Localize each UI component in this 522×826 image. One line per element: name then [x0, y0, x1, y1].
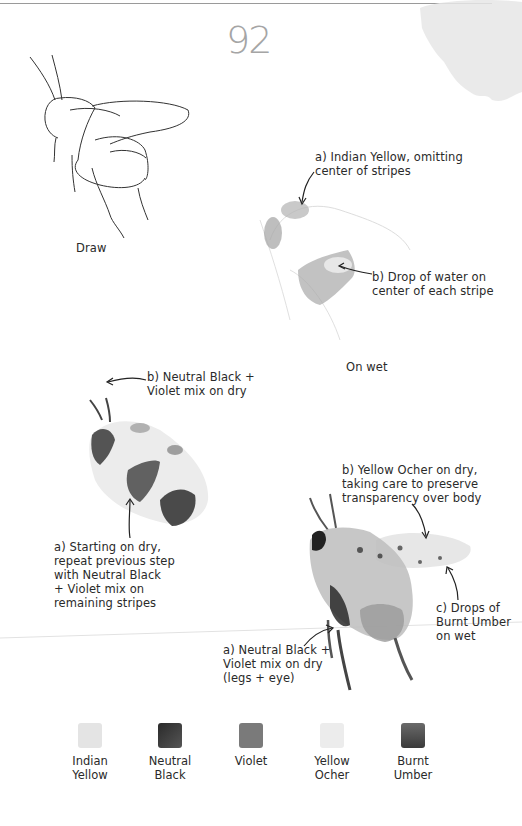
- arrow-icon: [410, 502, 432, 540]
- page-number: 92: [226, 18, 270, 62]
- final-note-a: a) Neutral Black + Violet mix on dry (le…: [223, 643, 331, 685]
- swatch-violet: [239, 723, 263, 748]
- step-draw-label: Draw: [76, 241, 106, 255]
- on-wet-label: On wet: [346, 360, 388, 374]
- arrow-icon: [104, 374, 148, 388]
- swatch-label-neutral-black: Neutral Black: [135, 754, 205, 782]
- bee-stripes-painting: [60, 400, 220, 540]
- arrow-icon: [338, 262, 374, 278]
- arrow-icon: [300, 170, 320, 210]
- swatch-indian-yellow: [78, 723, 102, 748]
- swatch-yellow-ocher: [320, 723, 344, 748]
- watercolor-splash-decoration: [400, 0, 522, 110]
- swatch-label-indian-yellow: Indian Yellow: [55, 754, 125, 782]
- swatch-label-burnt-umber: Burnt Umber: [378, 754, 448, 782]
- stripes-note-b: b) Neutral Black + Violet mix on dry: [147, 370, 255, 398]
- stripes-note-a: a) Starting on dry, repeat previous step…: [54, 540, 175, 610]
- arrow-icon: [302, 624, 336, 648]
- on-wet-note-b: b) Drop of water on center of each strip…: [372, 270, 494, 298]
- arrow-icon: [124, 498, 136, 540]
- swatch-label-violet: Violet: [216, 754, 286, 768]
- swatch-neutral-black: [158, 723, 182, 748]
- final-note-c: c) Drops of Burnt Umber on wet: [436, 601, 511, 643]
- bee-line-drawing: [0, 40, 200, 240]
- arrow-icon: [444, 566, 464, 602]
- on-wet-note-a: a) Indian Yellow, omitting center of str…: [315, 150, 463, 178]
- swatch-burnt-umber: [401, 723, 425, 748]
- final-note-b: b) Yellow Ocher on dry, taking care to p…: [342, 463, 481, 505]
- swatch-label-yellow-ocher: Yellow Ocher: [297, 754, 367, 782]
